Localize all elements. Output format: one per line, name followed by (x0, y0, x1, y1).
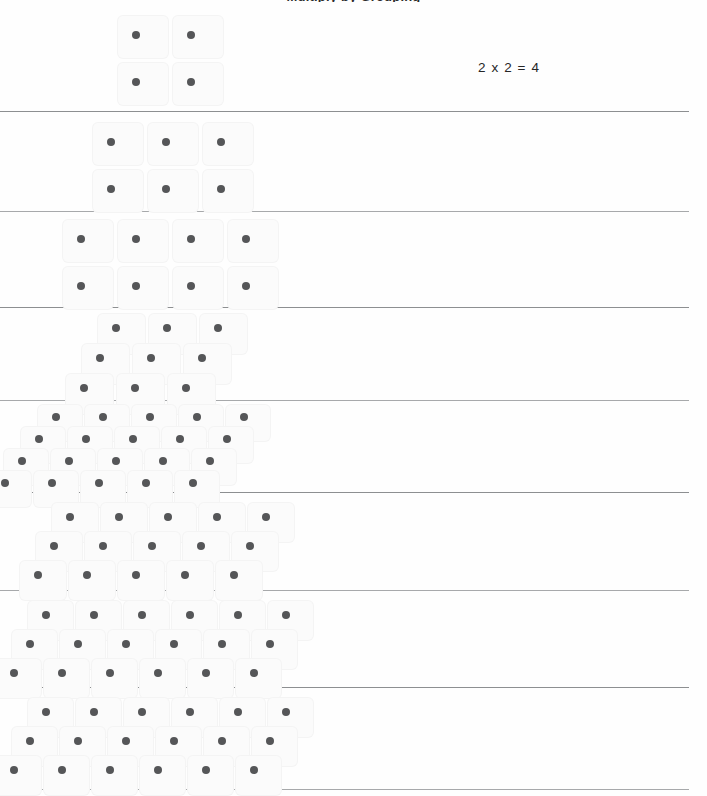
array-dot (107, 185, 115, 193)
array-dot (154, 669, 162, 677)
array-cell (44, 659, 89, 698)
array-dot (142, 479, 150, 487)
array-cell (44, 756, 89, 795)
array-dot (10, 766, 18, 774)
array-cell (216, 561, 262, 600)
array-cell (92, 756, 137, 795)
array-cell (173, 63, 223, 105)
array-dot (90, 708, 98, 716)
array-dot (193, 413, 201, 421)
array-dot (170, 737, 178, 745)
array-cell (92, 659, 137, 698)
array-dot (42, 611, 50, 619)
array-cell (0, 471, 31, 507)
array-dot (218, 737, 226, 745)
array-dot (187, 282, 195, 290)
array-cell (175, 471, 219, 507)
array-dot (163, 324, 171, 332)
array-cell (118, 220, 168, 262)
array-dot (115, 513, 123, 521)
array-cell (188, 659, 233, 698)
array-dot (217, 138, 225, 146)
equation-text: 2 x 2 = 4 (478, 60, 540, 75)
array-dot (34, 571, 42, 579)
array-cell (140, 659, 185, 698)
array-cell (34, 471, 78, 507)
array-dot (106, 766, 114, 774)
array-dot (242, 282, 250, 290)
array-cell (118, 267, 168, 309)
array-cell (118, 561, 164, 600)
array-cell (203, 123, 253, 165)
array-cell (63, 267, 113, 309)
array-dot (164, 513, 172, 521)
array-cell (167, 561, 213, 600)
array-cell (118, 63, 168, 105)
array-dot (77, 282, 85, 290)
worksheet-page: Multiply by Grouping 2 x 2 = 4 (0, 0, 707, 796)
array-dot (26, 640, 34, 648)
array-dot (230, 571, 238, 579)
array-dot (10, 669, 18, 677)
array-dot (202, 766, 210, 774)
array-dot (80, 384, 88, 392)
array-dot (282, 611, 290, 619)
array-dot (90, 611, 98, 619)
array-dot (187, 31, 195, 39)
array-dot (1, 479, 9, 487)
array-dot (187, 235, 195, 243)
array-dot (181, 571, 189, 579)
array-cell (236, 756, 281, 795)
array-cell (128, 471, 172, 507)
array-dot (266, 640, 274, 648)
array-dot (65, 457, 73, 465)
array-dot (132, 571, 140, 579)
array-dot (217, 185, 225, 193)
array-dot (83, 571, 91, 579)
array-cell (0, 659, 41, 698)
array-dot (266, 737, 274, 745)
array-dot (132, 235, 140, 243)
array-cell (228, 220, 278, 262)
array-cell (0, 756, 41, 795)
array-dot (162, 185, 170, 193)
array-dot (99, 542, 107, 550)
separator-line (0, 111, 689, 112)
array-dot (147, 354, 155, 362)
page-title: Multiply by Grouping (0, 0, 707, 2)
array-dot (250, 669, 258, 677)
array-dot (26, 737, 34, 745)
array-dot (77, 235, 85, 243)
array-dot (159, 457, 167, 465)
array-dot (250, 766, 258, 774)
array-dot (129, 435, 137, 443)
array-dot (48, 479, 56, 487)
array-dot (132, 31, 140, 39)
array-dot (246, 542, 254, 550)
array-dot (170, 640, 178, 648)
array-cell (118, 16, 168, 58)
array-dot (74, 737, 82, 745)
array-dot (213, 513, 221, 521)
array-dot (186, 708, 194, 716)
array-dot (96, 354, 104, 362)
array-dot (122, 737, 130, 745)
array-cell (20, 561, 66, 600)
array-dot (148, 542, 156, 550)
array-dot (262, 513, 270, 521)
array-dot (214, 324, 222, 332)
array-dot (223, 435, 231, 443)
array-dot (242, 235, 250, 243)
array-dot (182, 384, 190, 392)
array-dot (240, 413, 248, 421)
array-dot (95, 479, 103, 487)
array-cell (148, 123, 198, 165)
array-cell (173, 16, 223, 58)
array-dot (132, 78, 140, 86)
array-cell (203, 170, 253, 212)
array-cell (93, 170, 143, 212)
array-dot (187, 78, 195, 86)
array-dot (112, 457, 120, 465)
array-cell (63, 220, 113, 262)
array-dot (189, 479, 197, 487)
